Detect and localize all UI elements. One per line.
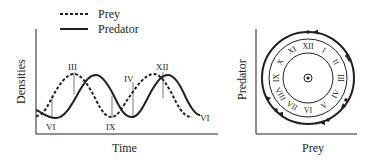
clock-numeral-ii: II <box>330 57 341 66</box>
annotation-iv: IV <box>124 74 134 84</box>
clock-numeral-vi: VI <box>304 106 313 115</box>
right-x-label: Prey <box>302 141 324 155</box>
left-panel: Prey Predator Densities Time VI III IX I… <box>14 7 218 155</box>
left-x-label: Time <box>112 141 137 155</box>
clock-numeral-i: I <box>321 46 328 55</box>
clock-numeral-iv: IV <box>330 88 342 100</box>
annotation-ix: IX <box>106 122 116 132</box>
annotation-vi-1: VI <box>46 122 56 132</box>
clock-numeral-xii: XII <box>302 42 313 51</box>
annotation-iii: III <box>68 62 77 72</box>
right-panel: Predator Prey XIIIIIIIIIVVVIVIIVIIIIXXXI <box>235 29 357 155</box>
left-y-label: Densities <box>14 59 28 104</box>
legend-predator-label: Predator <box>98 22 139 36</box>
clock-numeral-xi: XI <box>286 44 298 56</box>
figure: Prey Predator Densities Time VI III IX I… <box>0 0 374 161</box>
clock-numeral-ix: IX <box>272 74 281 83</box>
right-y-label: Predator <box>235 59 249 100</box>
legend-prey-label: Prey <box>98 7 120 21</box>
clock-numeral-v: V <box>319 100 329 111</box>
clock-numeral-x: X <box>275 57 286 67</box>
annotation-vi-2: VI <box>200 113 210 123</box>
center-dot <box>306 76 309 79</box>
predator-curve <box>36 75 200 118</box>
clock-numeral-iii: III <box>336 74 345 82</box>
annotation-xii: XII <box>156 62 169 72</box>
